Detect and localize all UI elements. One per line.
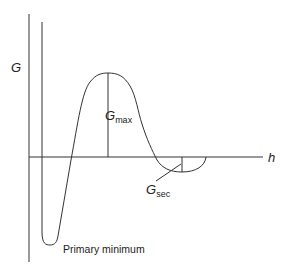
y-axis-label: G [11,61,21,74]
g-max-subscript: max [115,115,132,125]
g-sec-subscript: sec [156,189,170,199]
x-axis-label-text: h [268,150,275,165]
primary-minimum-label: Primary minimum [63,244,145,255]
y-axis-label-text: G [11,60,21,75]
g-sec-main: G [146,182,156,197]
g-max-main: G [105,108,115,123]
g-max-label: Gmax [105,109,132,122]
energy-curve [42,22,206,245]
diagram-canvas [0,0,290,269]
x-axis-label: h [268,151,275,164]
g-sec-leader [156,164,181,181]
g-sec-label: Gsec [146,183,170,196]
